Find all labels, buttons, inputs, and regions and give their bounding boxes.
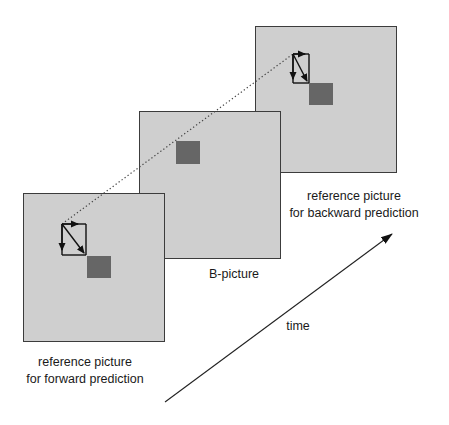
motion-trajectory-dotted-line bbox=[62, 54, 293, 224]
forward-caption-line1: reference picture bbox=[15, 354, 155, 371]
backward-caption-line2: for backward prediction bbox=[284, 205, 424, 222]
forward-motion-vector-icon bbox=[62, 224, 86, 255]
time-axis-label: time bbox=[280, 318, 316, 335]
backward-reference-caption: reference picture for backward predictio… bbox=[284, 188, 424, 222]
time-label-text: time bbox=[280, 318, 316, 335]
b-picture-prediction-diagram: reference picture for backward predictio… bbox=[0, 0, 449, 425]
b-picture-caption: B-picture bbox=[194, 266, 274, 283]
backward-motion-vector-icon bbox=[293, 54, 309, 83]
forward-reference-caption: reference picture for forward prediction bbox=[15, 354, 155, 388]
backward-caption-line1: reference picture bbox=[284, 188, 424, 205]
b-picture-caption-text: B-picture bbox=[194, 266, 274, 283]
forward-caption-line2: for forward prediction bbox=[15, 371, 155, 388]
time-arrow-icon bbox=[165, 234, 392, 402]
